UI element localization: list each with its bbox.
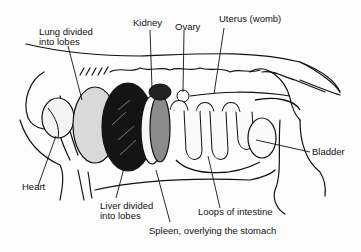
liver-label: Liver divided into lobes bbox=[100, 201, 153, 221]
anatomy-diagram: Lung divided into lobes Kidney Ovary Ute… bbox=[0, 0, 361, 252]
spleen-shape bbox=[150, 94, 170, 162]
belly-outline bbox=[95, 170, 275, 190]
kidney-label: Kidney bbox=[133, 18, 162, 28]
lung-label: Lung divided into lobes bbox=[39, 27, 93, 47]
bladder-label: Bladder bbox=[312, 147, 345, 157]
spleen-label: Spleen, overlying the stomach bbox=[149, 226, 276, 236]
ovary-label: Ovary bbox=[175, 22, 200, 32]
uterus-shape bbox=[190, 92, 290, 96]
bladder-shape bbox=[248, 118, 276, 158]
intestine-loops bbox=[172, 98, 300, 172]
uterus-label: Uterus (womb) bbox=[219, 14, 281, 24]
heart-label: Heart bbox=[22, 182, 45, 192]
hind-leg-outline bbox=[300, 120, 325, 196]
foreleg bbox=[78, 170, 92, 200]
intestine-label: Loops of intestine bbox=[198, 207, 272, 217]
